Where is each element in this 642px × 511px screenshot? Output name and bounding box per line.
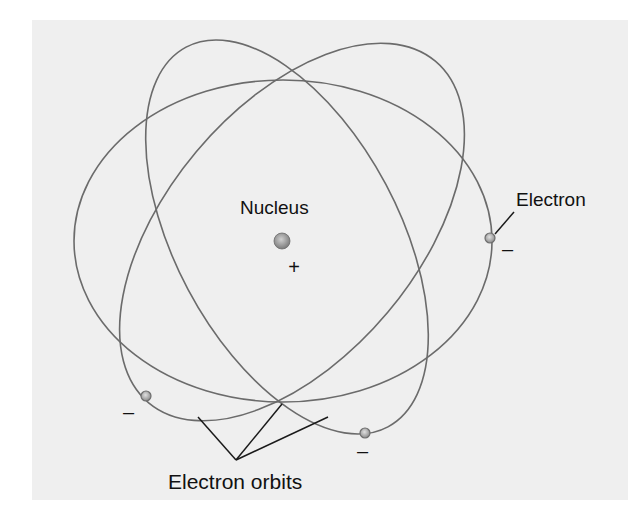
atom-diagram: + ––– Nucleus Electron Electron orbits [0, 0, 642, 511]
nucleus-positive-charge: + [288, 256, 300, 278]
electron-negative-charge: – [502, 238, 514, 260]
electron-sphere-icon [141, 391, 151, 401]
nucleus-sphere-icon [274, 233, 290, 249]
nucleus-label: Nucleus [240, 197, 309, 218]
diagram-background-panel [32, 20, 628, 500]
electron-sphere-icon [485, 233, 495, 243]
electron-label: Electron [516, 189, 586, 210]
electron-negative-charge: – [123, 401, 135, 423]
electron-sphere-icon [360, 428, 370, 438]
electron-orbits-label: Electron orbits [168, 470, 302, 493]
electron-negative-charge: – [357, 440, 369, 462]
